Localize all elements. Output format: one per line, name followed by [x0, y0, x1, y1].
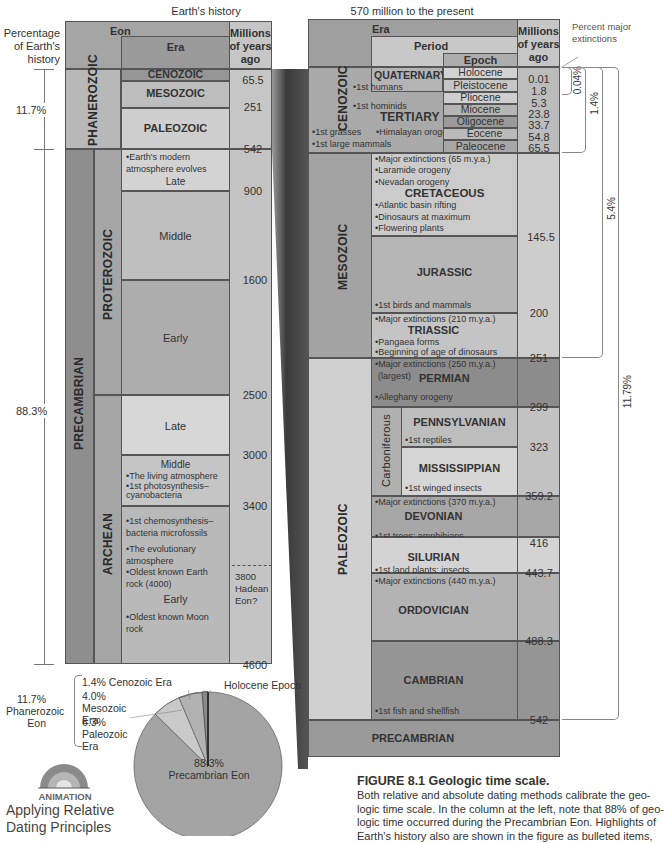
- tick-1600: 1600: [238, 274, 272, 286]
- note-laramide: •Laramide orogeny: [375, 165, 451, 177]
- tick-145-5: 145.5: [522, 231, 560, 243]
- tick-33-7: 33.7: [522, 119, 556, 131]
- jurassic-label: JURASSIC: [371, 266, 518, 278]
- tick-65-5: 65.5: [238, 74, 268, 86]
- permian-label: PERMIAN: [419, 372, 470, 384]
- mya-devonian: [517, 496, 560, 537]
- animation-disc-icon: [38, 762, 90, 790]
- tick-542-right: 542: [522, 714, 556, 726]
- note-1st-grasses: •1st grasses: [312, 127, 361, 139]
- note-modern-atmosphere: •Earth's modern atmosphere evolves: [126, 152, 226, 175]
- note-birds-mammals: •1st birds and mammals: [375, 300, 471, 312]
- note-dev-extinction: •Major extinctions (370 m.y.a.): [375, 497, 496, 509]
- epoch-header: Epoch: [443, 54, 518, 66]
- pro-middle-label: Middle: [121, 230, 230, 242]
- pie-label-precambrian: 88.3% Precambrian Eon: [168, 757, 250, 781]
- note-1st-reptiles: •1st reptiles: [405, 435, 452, 447]
- epoch-pleistocene-label: Pleistocene: [443, 79, 518, 91]
- animation-tag: ANIMATION: [30, 791, 100, 802]
- archean-label: ARCHEAN: [101, 500, 115, 575]
- tertiary-label: TERTIARY: [380, 110, 440, 124]
- tick-299: 299: [522, 401, 556, 413]
- note-moon-rock: •Oldest known Moon rock: [126, 612, 226, 635]
- tick-65-5-right: 65.5: [522, 142, 556, 154]
- pie-bracket: [74, 675, 82, 747]
- tick-251-right: 251: [522, 352, 556, 364]
- pct-11-79: 11.79%: [622, 375, 633, 408]
- figure-caption-body: Both relative and absolute dating method…: [357, 789, 666, 843]
- quaternary-label: QUATERNARY: [374, 69, 447, 81]
- epoch-eocene-label: Eocene: [447, 127, 522, 139]
- pct-precambrian: 88.3%: [16, 404, 47, 418]
- note-oldest-rock: •Oldest known Earth rock (4000): [126, 567, 226, 590]
- paleozoic-label: PALEOZOIC: [121, 122, 230, 134]
- note-atlantic-rifting: •Atlantic basin rifting: [375, 200, 456, 212]
- pct-phanerozoic: 11.7%: [16, 103, 46, 117]
- epoch-pliocene-label: Pliocene: [443, 91, 518, 103]
- mya-cambrian: [517, 641, 560, 720]
- epoch-oligocene-label: Oligocene: [443, 115, 518, 127]
- tick-3400: 3400: [238, 500, 272, 512]
- mississippian-label: MISSISSIPPIAN: [401, 462, 518, 474]
- tick-3000: 3000: [238, 449, 272, 461]
- mya-header-right: Millions of years ago: [517, 25, 560, 64]
- tick-542: 542: [238, 143, 268, 155]
- cambrian-label: CAMBRIAN: [371, 674, 496, 686]
- arc-middle-label: Middle: [121, 459, 230, 470]
- extinctions-header: Percent major extinctions: [572, 21, 642, 44]
- tick-488-3: 488.3: [520, 635, 558, 647]
- tick-251: 251: [238, 101, 268, 113]
- cretaceous-label: CRETACEOUS: [371, 187, 518, 199]
- pie-label-paleozoic: 6.3% Paleozoic Era: [82, 716, 122, 752]
- note-largest: (largest): [378, 371, 411, 383]
- period-header: Period: [371, 40, 491, 52]
- mesozoic-label-right: MESOZOIC: [336, 230, 350, 290]
- era-header: Era: [121, 41, 230, 53]
- cenozoic-label-right: CENOZOIC: [336, 71, 350, 131]
- mya-permian: [517, 358, 560, 407]
- tick-4600: 4600: [238, 659, 272, 671]
- hadean-dash: [232, 565, 272, 566]
- note-winged-insects: •1st winged insects: [405, 483, 482, 495]
- tick-1-8: 1.8: [522, 85, 556, 97]
- devonian-label: DEVONIAN: [371, 510, 496, 522]
- pie-label-cenozoic: 1.4% Cenozoic Era: [82, 676, 172, 688]
- percentage-header: Percentage of Earth's history: [2, 27, 60, 66]
- expansion-wedge: [272, 69, 308, 769]
- precambrian-label-right: PRECAMBRIAN: [308, 732, 518, 744]
- mesozoic-label: MESOZOIC: [121, 87, 230, 99]
- epoch-paleocene-label: Paleocene: [443, 140, 518, 152]
- cenozoic-label: CENOZOIC: [121, 68, 230, 80]
- hadean-label: 3800 Hadean Eon?: [235, 571, 269, 607]
- tick-0-01: 0.01: [522, 73, 556, 85]
- pro-late-label: Late: [121, 176, 230, 187]
- precambrian-label: PRECAMBRIAN: [72, 340, 86, 450]
- pie-bracket-label: 11.7% Phanerozoic Eon: [6, 693, 46, 729]
- note-flowering-plants: •Flowering plants: [375, 223, 444, 235]
- tick-443-7: 443.7: [520, 567, 558, 579]
- proterozoic-label: PROTEROZOIC: [101, 230, 115, 320]
- tick-900: 900: [238, 185, 268, 197]
- arc-early-label: Early: [121, 593, 230, 605]
- figure-caption-title: FIGURE 8.1 Geologic time scale.: [357, 774, 549, 788]
- mya-header: Millions of years ago: [229, 27, 272, 66]
- tick-359-2: 359.2: [520, 490, 558, 502]
- left-title: Earth's history: [136, 5, 276, 17]
- paleozoic-label-right: PALEOZOIC: [336, 500, 350, 575]
- mya-mesozoic: [517, 153, 560, 358]
- note-fish-shellfish: •1st fish and shellfish: [375, 706, 459, 718]
- epoch-miocene-label: Miocene: [443, 103, 518, 115]
- note-cret-extinction: •Major extinctions (65 m.y.a.): [375, 154, 491, 166]
- note-photosynthesis: •1st photosynthesis– cyanobacteria: [126, 482, 226, 500]
- note-chemosynthesis: •1st chemosynthesis– bacteria microfossi…: [126, 516, 226, 539]
- tick-200: 200: [522, 307, 556, 319]
- animation-link[interactable]: Applying Relative Dating Principles: [6, 802, 126, 836]
- bracket-11-79: [562, 67, 619, 720]
- note-ord-extinction: •Major extinctions (440 m.y.a.): [375, 576, 496, 588]
- phanerozoic-label: PHANEROZOIC: [86, 72, 100, 146]
- tick-2500: 2500: [238, 389, 272, 401]
- right-title: 570 million to the present: [312, 5, 512, 17]
- note-1st-humans: •1st humans: [353, 82, 403, 94]
- silurian-label: SILURIAN: [371, 551, 496, 563]
- ordovician-label: ORDOVICIAN: [371, 604, 496, 616]
